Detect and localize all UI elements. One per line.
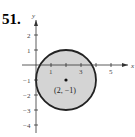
x-tick-1: 1	[49, 68, 53, 76]
y-tick-m3: −3	[23, 107, 31, 115]
y-axis-arrow-icon	[34, 20, 38, 26]
y-tick-m1: −1	[23, 77, 31, 85]
y-axis-label: y	[31, 12, 36, 20]
x-axis-label: x	[130, 62, 135, 70]
problem-number: 51.	[2, 11, 21, 27]
x-tick-5: 5	[109, 68, 113, 76]
center-point	[64, 78, 67, 81]
x-tick-3: 3	[79, 68, 83, 76]
y-tick-m4: −4	[23, 122, 31, 130]
circle-graph: 51. x y 1 3 5 2 1 −1 −2 −3 −4 (2, −1)	[0, 0, 135, 137]
x-axis-arrow-icon	[122, 63, 128, 67]
y-tick-m2: −2	[23, 92, 31, 100]
y-tick-2: 2	[27, 32, 31, 40]
y-tick-1: 1	[27, 47, 31, 55]
center-label: (2, −1)	[54, 86, 76, 95]
